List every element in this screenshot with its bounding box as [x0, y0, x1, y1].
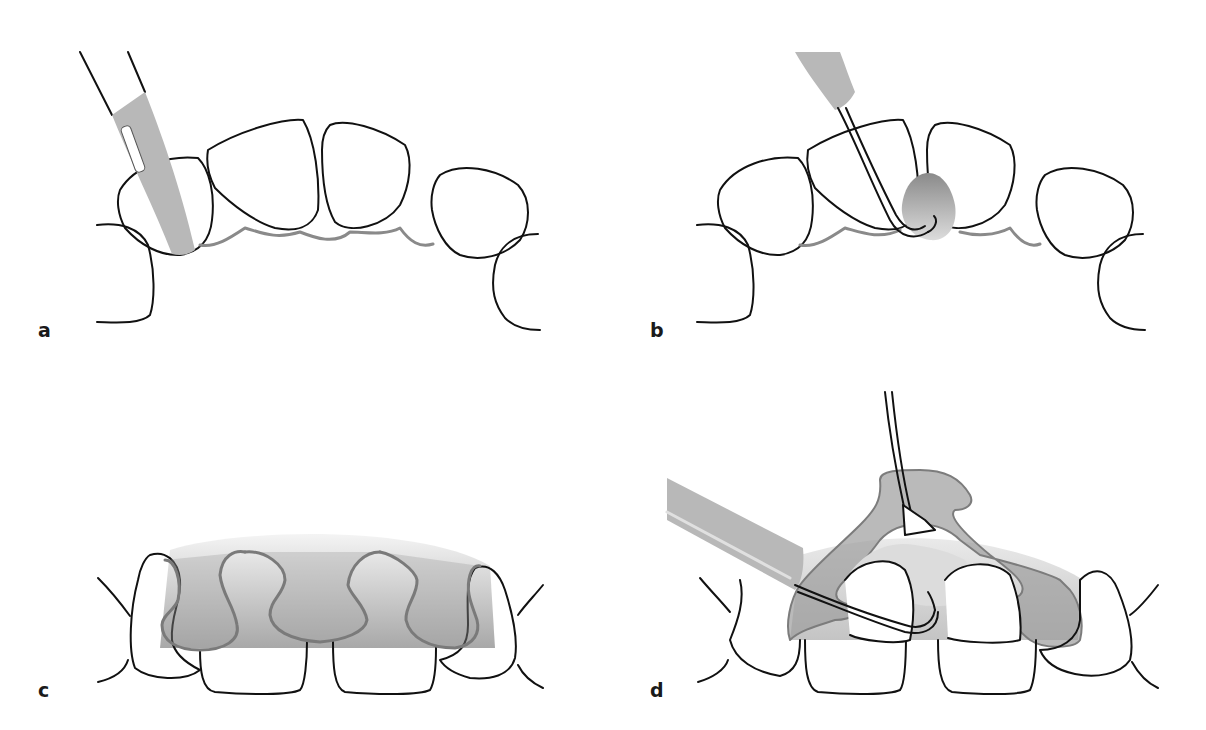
lip-contour-left-c: [98, 578, 130, 682]
papilla-b: [902, 173, 956, 240]
panel-c: [98, 534, 543, 694]
panel-d: [667, 392, 1158, 694]
panel-b: [697, 52, 1145, 330]
panel-label-b: b: [650, 319, 664, 341]
tooth-a3: [322, 123, 410, 228]
dental-procedure-figure: a b c: [0, 0, 1206, 730]
tooth-a2: [207, 120, 318, 230]
tooth-c3: [333, 642, 436, 694]
panel-label-c: c: [38, 679, 49, 701]
gingival-margin-a: [200, 228, 433, 246]
lip-contour-right-d: [1130, 585, 1158, 688]
tooth-b2: [807, 120, 918, 230]
tooth-a4: [431, 168, 528, 258]
lip-contour-left-d: [698, 578, 730, 682]
panel-label-a: a: [38, 319, 51, 341]
lip-contour-right-b: [1098, 234, 1145, 330]
panel-a: [80, 52, 540, 330]
scalpel-blade: [112, 92, 195, 255]
lip-contour-left-b: [697, 224, 754, 322]
tooth-d3: [938, 640, 1036, 694]
lip-contour-right: [493, 234, 540, 330]
elevator-handle: [795, 52, 855, 110]
tooth-d3-crown: [945, 564, 1021, 642]
tooth-d2-crown: [845, 561, 913, 642]
lip-contour-right-c: [518, 585, 543, 688]
tooth-b4: [1036, 168, 1133, 258]
tooth-b1: [718, 157, 813, 255]
lip-contour-left: [97, 224, 154, 322]
tooth-d2: [805, 635, 906, 694]
panel-label-d: d: [650, 679, 664, 701]
